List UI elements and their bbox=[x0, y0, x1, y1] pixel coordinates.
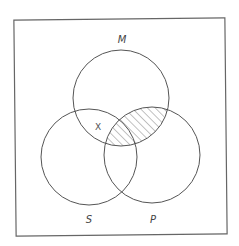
set-s-circle bbox=[41, 109, 137, 205]
set-p-label: P bbox=[150, 214, 157, 225]
set-m-label: M bbox=[118, 34, 127, 45]
set-s-label: S bbox=[86, 214, 93, 225]
venn-diagram: M S P X bbox=[0, 0, 239, 246]
x-mark: X bbox=[95, 122, 101, 132]
